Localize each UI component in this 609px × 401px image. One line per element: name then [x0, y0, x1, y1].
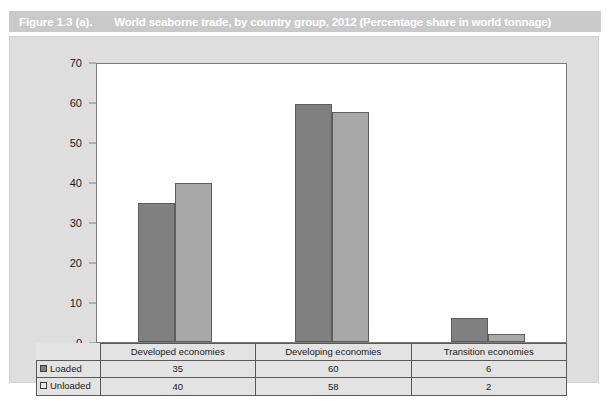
- figure-container: Figure 1.3 (a). World seaborne trade, by…: [0, 0, 609, 401]
- table-cell: 6: [411, 361, 567, 378]
- plot-area: [96, 63, 567, 343]
- y-axis-tick-mark: [89, 303, 96, 304]
- y-axis-tick-mark: [89, 63, 96, 64]
- y-axis-tick-mark: [89, 103, 96, 104]
- table-cell: 60: [256, 361, 412, 378]
- column-header: Developing economies: [256, 344, 412, 361]
- bar-unloaded-1: [332, 112, 369, 342]
- table-cell: 35: [100, 361, 256, 378]
- chart-panel: 010203040506070 Developed economiesDevel…: [9, 36, 599, 383]
- legend-label: Unloaded: [50, 381, 91, 392]
- data-table: Developed economiesDeveloping economiesT…: [36, 343, 567, 396]
- legend-label: Loaded: [50, 363, 82, 374]
- y-axis-tick-label: 40: [70, 177, 82, 189]
- bars-layer: [97, 64, 566, 342]
- bar-loaded-1: [295, 104, 332, 342]
- legend-swatch-icon: [40, 365, 47, 372]
- bar-unloaded-0: [175, 183, 212, 342]
- y-axis-tick-label: 20: [70, 257, 82, 269]
- column-header: Developed economies: [100, 344, 256, 361]
- legend-item-unloaded[interactable]: Unloaded: [37, 378, 101, 395]
- y-axis-tick-mark: [89, 143, 96, 144]
- y-axis-tick-mark: [89, 263, 96, 264]
- figure-number: Figure 1.3 (a).: [9, 16, 92, 28]
- y-axis-tick-label: 60: [70, 97, 82, 109]
- bar-unloaded-2: [488, 334, 525, 342]
- table-cell: 40: [100, 378, 256, 395]
- legend-item-loaded[interactable]: Loaded: [37, 361, 101, 378]
- table-row: Unloaded40582: [37, 378, 567, 395]
- table-header-row: Developed economiesDeveloping economiesT…: [37, 344, 567, 361]
- y-axis-tick-label: 30: [70, 217, 82, 229]
- legend-swatch-icon: [40, 382, 47, 389]
- bar-loaded-0: [138, 203, 175, 342]
- y-axis-tick-mark: [89, 183, 96, 184]
- page-title: World seaborne trade, by country group, …: [92, 16, 551, 28]
- y-axis-tick-label: 70: [70, 57, 82, 69]
- y-axis-tick-label: 50: [70, 137, 82, 149]
- bar-loaded-2: [451, 318, 488, 342]
- figure-title-bar: Figure 1.3 (a). World seaborne trade, by…: [9, 11, 601, 32]
- table-corner-cell: [37, 344, 101, 361]
- table-cell: 2: [411, 378, 567, 395]
- column-header: Transition economies: [411, 344, 567, 361]
- table-row: Loaded35606: [37, 361, 567, 378]
- y-axis-tick-mark: [89, 223, 96, 224]
- table-cell: 58: [256, 378, 412, 395]
- y-axis-tick-label: 10: [70, 297, 82, 309]
- y-axis: 010203040506070: [10, 63, 96, 343]
